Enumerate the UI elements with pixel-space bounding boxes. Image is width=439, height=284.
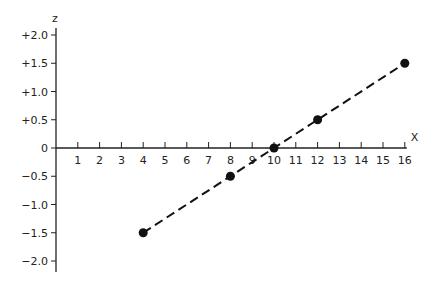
x-tick-label: 5 (162, 154, 169, 167)
y-tick-label: +1.5 (21, 57, 48, 70)
y-tick-label: −2.0 (21, 255, 48, 268)
x-tick-label: 15 (376, 154, 390, 167)
x-tick-label: 1 (74, 154, 81, 167)
x-tick-label: 6 (183, 154, 190, 167)
data-point (313, 115, 322, 124)
data-point (139, 228, 148, 237)
x-tick-label: 14 (354, 154, 368, 167)
x-tick-label: 13 (332, 154, 346, 167)
y-tick-label: −1.0 (21, 199, 48, 212)
axes: zX (52, 12, 419, 272)
data-point (270, 144, 279, 153)
y-tick-label: +1.0 (21, 86, 48, 99)
x-tick-label: 11 (289, 154, 303, 167)
x-tick-label: 12 (311, 154, 325, 167)
x-tick-label: 8 (227, 154, 234, 167)
x-tick-label: 7 (205, 154, 212, 167)
x-tick-label: 16 (398, 154, 412, 167)
data-point (400, 59, 409, 68)
x-tick-label: 10 (267, 154, 281, 167)
y-tick-label: 0 (41, 142, 48, 155)
y-tick-label: −0.5 (21, 170, 48, 183)
y-tick-label: +2.0 (21, 29, 48, 42)
line-chart: zX +2.0+1.5+1.0+0.50−0.5−1.0−1.5−2.01234… (0, 0, 439, 284)
y-axis-title: z (52, 12, 58, 25)
x-tick-label: 2 (96, 154, 103, 167)
x-tick-label: 3 (118, 154, 125, 167)
data-point (226, 172, 235, 181)
x-axis-title: X (411, 131, 419, 144)
y-tick-label: −1.5 (21, 227, 48, 240)
y-tick-label: +0.5 (21, 114, 48, 127)
x-tick-label: 4 (140, 154, 147, 167)
